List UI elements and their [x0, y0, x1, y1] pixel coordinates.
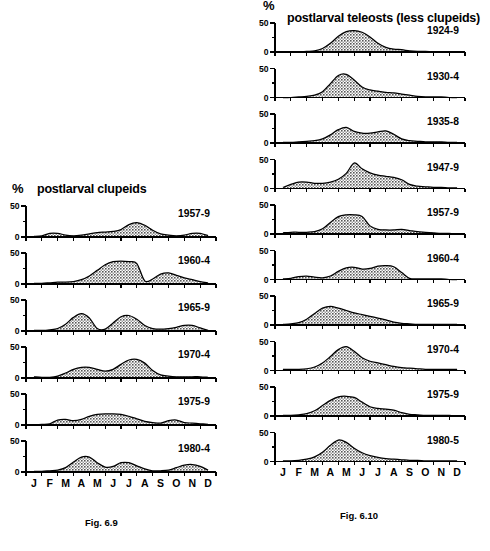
- chart-teleosts-1970-4: 0501970-4: [259, 337, 465, 376]
- chart-teleosts-1957-9: 0501957-9: [259, 200, 465, 239]
- month-tick-label: A: [390, 466, 398, 478]
- month-tick-label: S: [157, 477, 164, 489]
- chart-year-label: 1980-5: [427, 435, 459, 446]
- right-figure-caption: Fig. 6.10: [340, 510, 378, 521]
- y-tick-label: 0: [264, 138, 269, 148]
- chart-clupeids-1980-4: 0501980-4JFMAMJJASOND: [10, 436, 216, 488]
- y-tick-label: 50: [259, 291, 269, 301]
- month-tick-label: A: [141, 477, 149, 489]
- y-tick-label: 50: [259, 382, 269, 392]
- chart-year-label: 1957-9: [178, 208, 210, 219]
- chart-year-label: 1960-4: [427, 253, 459, 264]
- month-tick-label: J: [375, 466, 381, 478]
- chart-clupeids-1957-9: 0501957-9: [10, 201, 216, 242]
- chart-clupeids-1970-4: 0501970-4: [10, 342, 216, 383]
- left-panel-title: postlarval clupeids: [37, 182, 146, 196]
- figure-root: % postlarval clupeids 0501957-90501960-4…: [0, 0, 490, 551]
- chart-year-label: 1975-9: [427, 389, 459, 400]
- chart-clupeids-1965-9: 0501965-9: [10, 295, 216, 336]
- y-tick-label: 0: [264, 47, 269, 57]
- chart-teleosts-1924-9: 0501924-9: [259, 18, 465, 57]
- month-tick-label: J: [110, 477, 116, 489]
- y-tick-label: 50: [10, 436, 20, 446]
- month-tick-label: N: [188, 477, 196, 489]
- y-tick-label: 0: [15, 467, 20, 477]
- y-tick-label: 50: [10, 389, 20, 399]
- chart-teleosts-1947-9: 0501947-9: [259, 155, 465, 194]
- chart-teleosts-1965-9: 0501965-9: [259, 291, 465, 330]
- chart-year-label: 1957-9: [427, 207, 459, 218]
- figure-6-9-panel: % postlarval clupeids 0501957-90501960-4…: [0, 185, 240, 551]
- chart-year-label: 1947-9: [427, 162, 459, 173]
- chart-clupeids-1975-9: 0501975-9: [10, 389, 216, 430]
- left-percent-symbol: %: [12, 181, 24, 196]
- month-tick-label: D: [204, 477, 212, 489]
- chart-year-label: 1924-9: [427, 25, 459, 36]
- y-tick-label: 0: [15, 420, 20, 430]
- y-tick-label: 50: [10, 342, 20, 352]
- chart-year-label: 1960-4: [178, 255, 210, 266]
- month-tick-label: M: [310, 466, 319, 478]
- month-tick-label: F: [296, 466, 303, 478]
- chart-teleosts-1975-9: 0501975-9: [259, 382, 465, 421]
- y-tick-label: 0: [264, 184, 269, 194]
- chart-teleosts-1935-8: 0501935-8: [259, 109, 465, 148]
- chart-teleosts-1980-5: 0501980-5JFMAMJJASOND: [259, 428, 465, 478]
- y-tick-label: 50: [10, 201, 20, 211]
- chart-year-label: 1930-4: [427, 71, 459, 82]
- chart-clupeids-1960-4: 0501960-4: [10, 248, 216, 289]
- chart-year-label: 1965-9: [178, 302, 210, 313]
- y-tick-label: 50: [259, 155, 269, 165]
- month-tick-label: J: [31, 477, 37, 489]
- chart-teleosts-1930-4: 0501930-4: [259, 64, 465, 103]
- y-tick-label: 0: [264, 93, 269, 103]
- y-tick-label: 50: [259, 18, 269, 28]
- y-tick-label: 50: [259, 64, 269, 74]
- month-tick-label: A: [327, 466, 335, 478]
- month-tick-label: J: [126, 477, 132, 489]
- month-tick-label: D: [453, 466, 461, 478]
- chart-year-label: 1975-9: [178, 396, 210, 407]
- y-tick-label: 0: [264, 229, 269, 239]
- right-charts-svg: 0501924-90501930-40501935-80501947-90501…: [245, 16, 490, 486]
- month-tick-label: J: [280, 466, 286, 478]
- month-tick-label: M: [61, 477, 70, 489]
- y-tick-label: 50: [259, 109, 269, 119]
- chart-area-fill: [283, 266, 457, 280]
- y-tick-label: 50: [259, 337, 269, 347]
- y-tick-label: 0: [264, 411, 269, 421]
- month-tick-label: F: [47, 477, 54, 489]
- chart-teleosts-1960-4: 0501960-4: [259, 246, 465, 285]
- chart-year-label: 1970-4: [427, 344, 459, 355]
- y-tick-label: 0: [15, 373, 20, 383]
- month-tick-label: N: [437, 466, 445, 478]
- month-tick-label: A: [78, 477, 86, 489]
- month-tick-label: M: [342, 466, 351, 478]
- month-tick-label: O: [172, 477, 180, 489]
- right-percent-symbol: %: [263, 0, 275, 13]
- month-tick-label: J: [359, 466, 365, 478]
- y-tick-label: 0: [264, 366, 269, 376]
- chart-year-label: 1965-9: [427, 298, 459, 309]
- left-charts-svg: 0501957-90501960-40501965-90501970-40501…: [0, 199, 240, 519]
- y-tick-label: 50: [259, 246, 269, 256]
- chart-year-label: 1980-4: [178, 443, 210, 454]
- y-tick-label: 50: [10, 295, 20, 305]
- y-tick-label: 0: [15, 232, 20, 242]
- figure-6-10-panel: % postlarval teleosts (less clupeids) 05…: [245, 0, 490, 551]
- y-tick-label: 50: [259, 428, 269, 438]
- left-figure-caption: Fig. 6.9: [85, 517, 118, 528]
- chart-year-label: 1935-8: [427, 116, 459, 127]
- y-tick-label: 0: [264, 457, 269, 467]
- y-tick-label: 0: [264, 275, 269, 285]
- month-tick-label: O: [421, 466, 429, 478]
- chart-year-label: 1970-4: [178, 349, 210, 360]
- y-tick-label: 50: [259, 200, 269, 210]
- month-tick-label: S: [406, 466, 413, 478]
- y-tick-label: 0: [264, 320, 269, 330]
- month-tick-label: M: [93, 477, 102, 489]
- y-tick-label: 50: [10, 248, 20, 258]
- y-tick-label: 0: [15, 326, 20, 336]
- y-tick-label: 0: [15, 279, 20, 289]
